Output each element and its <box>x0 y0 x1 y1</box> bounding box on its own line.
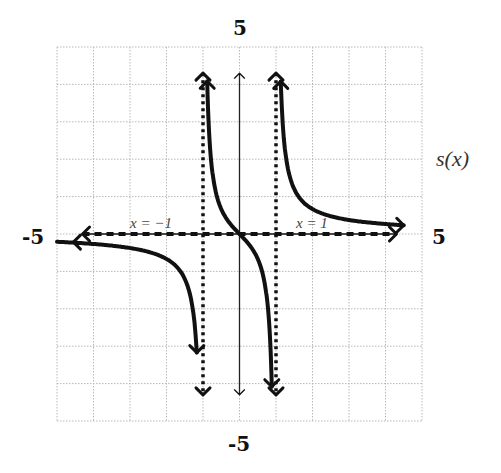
y-min-label: -5 <box>228 432 250 456</box>
asymptote-up-arrow-icon <box>269 73 283 80</box>
asymptote-label: x = −1 <box>129 215 172 231</box>
asymptote-up-arrow-icon <box>196 73 210 80</box>
x-max-label: 5 <box>432 225 446 249</box>
y-max-label: 5 <box>233 16 247 40</box>
rational-function-graph: x = −1x = 1 <box>0 0 501 473</box>
left-branch-curve <box>57 242 197 353</box>
x-min-label: -5 <box>22 225 44 249</box>
function-label: s(x) <box>436 146 469 172</box>
asymptote-label: x = 1 <box>295 215 328 231</box>
